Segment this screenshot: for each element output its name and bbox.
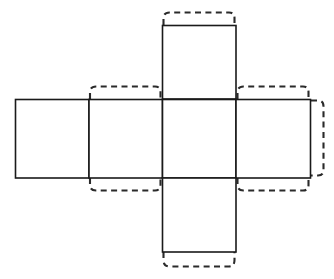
face-bottom bbox=[163, 178, 237, 252]
cube-net-svg bbox=[0, 0, 334, 279]
face-right bbox=[236, 100, 311, 179]
face-left bbox=[16, 100, 90, 179]
tab-bottom-face-bottom bbox=[164, 252, 235, 267]
tab-right-face-bottom bbox=[238, 178, 309, 191]
tab-right-face-right bbox=[311, 101, 324, 176]
cube-faces-group bbox=[16, 26, 311, 253]
tab-right-face-top bbox=[238, 87, 309, 100]
tab-left-center-face-top bbox=[90, 87, 161, 100]
tab-top-face-top bbox=[164, 13, 235, 26]
face-center bbox=[163, 100, 237, 179]
face-left-center bbox=[89, 100, 163, 179]
face-top bbox=[163, 26, 237, 100]
cube-net-diagram bbox=[0, 0, 334, 279]
tab-left-center-face-bottom bbox=[90, 178, 161, 191]
